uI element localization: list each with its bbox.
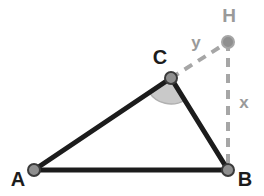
vertex-dot-b <box>222 164 234 176</box>
vertex-label-a: A <box>11 168 25 190</box>
vertex-label-b: B <box>238 168 252 190</box>
segment-label-y: y <box>191 33 201 52</box>
segment-cb <box>171 78 228 170</box>
vertex-dot-a <box>28 164 40 176</box>
vertex-dot-c <box>165 72 177 84</box>
vertex-label-c: C <box>153 46 167 68</box>
segment-label-x: x <box>239 93 249 112</box>
vertex-label-h: H <box>222 5 236 26</box>
geometry-canvas: y x A B C H <box>0 0 264 196</box>
segment-ac <box>34 78 171 170</box>
geometry-figure: y x A B C H <box>0 0 264 196</box>
vertex-dot-h <box>222 36 234 48</box>
